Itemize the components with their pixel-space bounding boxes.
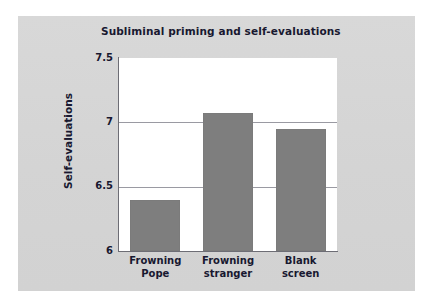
y-tick-label: 6.5 — [73, 180, 113, 191]
bar — [130, 200, 180, 252]
plot-area — [119, 58, 337, 251]
x-tick-label-line: screen — [258, 268, 343, 281]
chart-title: Subliminal priming and self-evaluations — [101, 25, 361, 37]
x-tick-label: Blankscreen — [258, 255, 343, 280]
x-tick-label-line: Blank — [258, 255, 343, 268]
chart-figure: Subliminal priming and self-evaluations … — [0, 0, 433, 307]
y-tick-label: 7 — [73, 116, 113, 127]
y-tick-label: 6 — [73, 245, 113, 256]
bar — [276, 129, 326, 251]
y-tick-label: 7.5 — [73, 52, 113, 63]
bar — [203, 113, 253, 251]
